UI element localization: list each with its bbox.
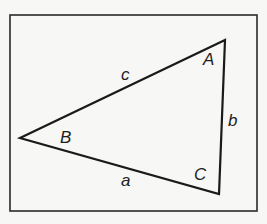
angle-label-a: A bbox=[202, 50, 214, 69]
angle-label-b: B bbox=[60, 128, 71, 147]
side-label-a: a bbox=[121, 171, 130, 190]
side-label-b: b bbox=[228, 111, 237, 130]
side-label-c: c bbox=[121, 65, 130, 84]
angle-label-c: C bbox=[194, 165, 207, 184]
triangle-diagram: A B C a b c bbox=[0, 0, 267, 224]
